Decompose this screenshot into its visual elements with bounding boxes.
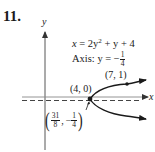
equation-rhs-prefix: = 2y	[77, 38, 99, 49]
vertex-x-fraction: 31 8	[51, 112, 61, 128]
vertex-y-den: 4	[71, 121, 77, 129]
equation: x = 2y2 + y + 4	[72, 38, 135, 50]
vertex-close-paren: )	[78, 110, 83, 130]
point-7-1	[125, 82, 129, 86]
axis-of-symmetry-label: Axis: y = − 1 4	[72, 51, 125, 67]
vertex-label: ( 31 8 , − 1 4 )	[44, 110, 84, 130]
vertex-open-paren: (	[45, 110, 50, 130]
vertex-y-fraction: 1 4	[71, 112, 77, 128]
parabola-lower-branch	[90, 99, 146, 119]
equation-rhs-suffix: + y + 4	[102, 38, 135, 49]
point-7-1-label: (7, 1)	[105, 70, 127, 80]
axis-fraction: 1 4	[120, 51, 126, 67]
axis-prefix: Axis: y = −	[72, 54, 120, 65]
vertex-separator: ,	[61, 115, 64, 126]
y-axis-label: y	[42, 17, 46, 27]
vertex-point	[88, 97, 93, 102]
x-axis-label: x	[149, 92, 153, 102]
axis-frac-den: 4	[120, 60, 126, 68]
intercept-label: (4, 0)	[70, 84, 92, 94]
vertex-x-den: 8	[53, 121, 59, 129]
parabola-upper-branch	[90, 80, 146, 99]
vertex-leader-arrowhead	[87, 102, 90, 105]
